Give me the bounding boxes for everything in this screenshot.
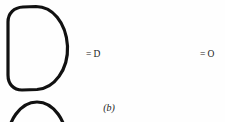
label-d-letter: D xyxy=(94,49,101,59)
equals-sign-right: = xyxy=(200,49,206,60)
equals-sign-left: = xyxy=(86,49,92,60)
figure-caption: (b) xyxy=(0,102,218,113)
label-o: =O xyxy=(200,49,215,60)
d-shape xyxy=(0,0,76,96)
label-d: =D xyxy=(86,49,101,60)
d-shape-icon xyxy=(0,0,76,96)
label-o-letter: O xyxy=(208,49,215,59)
figure-panel-b: =D =O (b) xyxy=(0,0,225,122)
